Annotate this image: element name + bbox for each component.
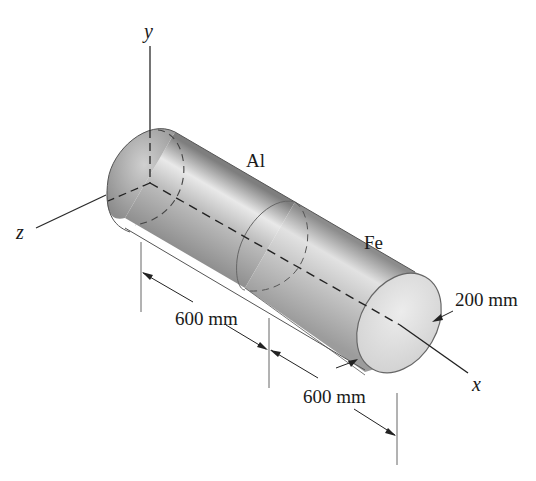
diameter-label: 200 mm bbox=[455, 289, 518, 310]
fe-length-label: 600 mm bbox=[303, 386, 366, 407]
z-axis-label: z bbox=[15, 221, 24, 243]
x-axis-label: x bbox=[471, 373, 481, 395]
iron-label: Fe bbox=[364, 232, 383, 253]
aluminum-label: Al bbox=[246, 150, 265, 171]
al-length-label: 600 mm bbox=[175, 308, 238, 329]
y-axis-label: y bbox=[142, 20, 153, 43]
composite-shaft-diagram: y z x Al Fe 200 mm bbox=[0, 0, 536, 481]
z-axis bbox=[36, 195, 106, 228]
